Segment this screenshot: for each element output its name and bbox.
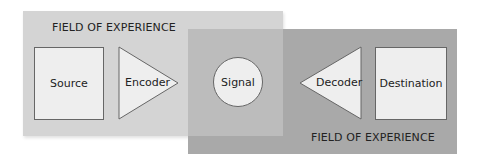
signal-label: Signal bbox=[221, 76, 255, 89]
destination-node: Destination bbox=[375, 47, 447, 120]
field-label-sender: FIELD OF EXPERIENCE bbox=[52, 21, 176, 34]
signal-node: Signal bbox=[213, 57, 263, 107]
field-label-receiver: FIELD OF EXPERIENCE bbox=[311, 131, 435, 144]
source-label: Source bbox=[50, 77, 88, 90]
decoder-label: Decoder bbox=[316, 76, 362, 89]
source-node: Source bbox=[34, 47, 104, 120]
encoder-label: Encoder bbox=[125, 76, 170, 89]
destination-label: Destination bbox=[379, 77, 442, 90]
